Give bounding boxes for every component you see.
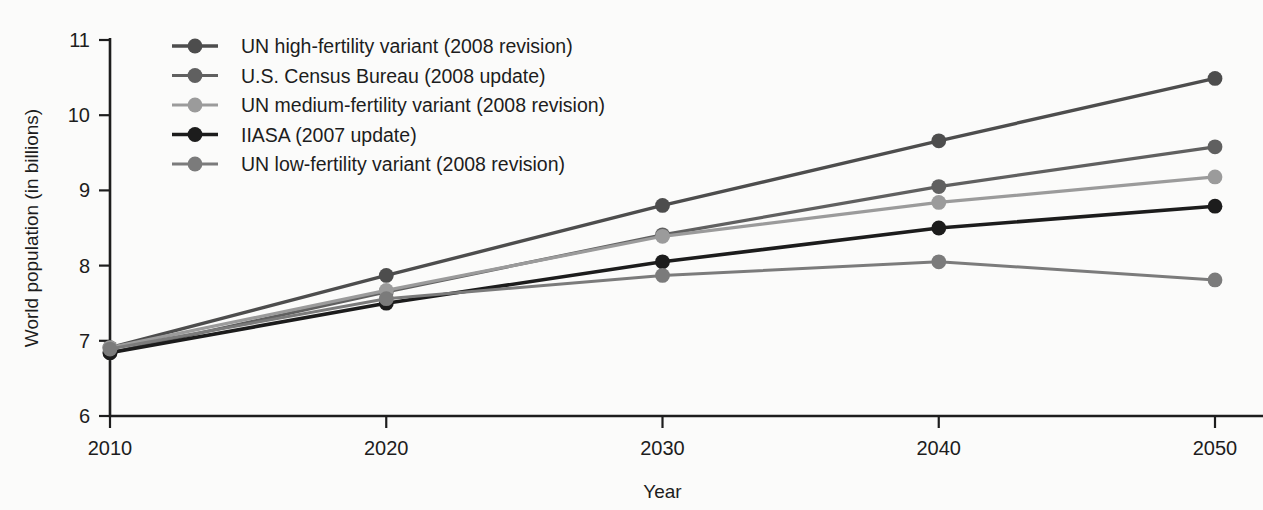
data-point-marker <box>1208 170 1223 185</box>
legend-label: UN high-fertility variant (2008 revision… <box>241 35 573 57</box>
x-axis-tick-label: 2030 <box>640 437 685 459</box>
population-projection-chart: 6789101120102020203020402050YearWorld po… <box>0 0 1263 510</box>
legend-label: IIASA (2007 update) <box>241 124 417 146</box>
legend-label: UN low-fertility variant (2008 revision) <box>241 153 565 175</box>
data-point-marker <box>655 198 670 213</box>
data-point-marker <box>1208 139 1223 154</box>
data-point-marker <box>931 221 946 236</box>
y-axis-tick-label: 7 <box>79 330 90 352</box>
x-axis-tick-label: 2010 <box>88 437 133 459</box>
y-axis-title: World population (in billions) <box>21 109 42 347</box>
data-point-marker <box>1208 71 1223 86</box>
data-point-marker <box>931 254 946 269</box>
chart-canvas: 6789101120102020203020402050YearWorld po… <box>0 0 1263 510</box>
x-axis-tick-label: 2040 <box>917 437 962 459</box>
y-axis-tick-label: 10 <box>68 104 90 126</box>
legend-swatch-marker <box>188 127 203 142</box>
y-axis-tick-label: 11 <box>69 29 90 51</box>
legend-item[interactable]: IIASA (2007 update) <box>172 124 417 146</box>
legend-item[interactable]: U.S. Census Bureau (2008 update) <box>172 65 546 87</box>
x-axis-title: Year <box>643 481 682 502</box>
legend-item[interactable]: UN high-fertility variant (2008 revision… <box>172 35 573 57</box>
data-point-marker <box>103 342 118 357</box>
legend-item[interactable]: UN medium-fertility variant (2008 revisi… <box>172 94 605 116</box>
data-point-marker <box>1208 273 1223 288</box>
data-point-marker <box>1208 199 1223 214</box>
data-point-marker <box>931 179 946 194</box>
x-axis-tick-label: 2020 <box>364 437 409 459</box>
legend-label: UN medium-fertility variant (2008 revisi… <box>241 94 605 116</box>
data-point-marker <box>655 268 670 283</box>
y-axis-tick-label: 9 <box>79 179 90 201</box>
y-axis-tick-label: 6 <box>79 405 90 427</box>
legend-swatch-marker <box>188 98 203 113</box>
legend-swatch-marker <box>188 39 203 54</box>
data-point-marker <box>931 133 946 148</box>
legend-swatch-marker <box>188 68 203 83</box>
series-line <box>110 78 1215 347</box>
data-point-marker <box>655 229 670 244</box>
data-point-marker <box>655 254 670 269</box>
y-axis-tick-label: 8 <box>79 255 90 277</box>
legend-swatch-marker <box>188 157 203 172</box>
data-point-marker <box>931 195 946 210</box>
legend-item[interactable]: UN low-fertility variant (2008 revision) <box>172 153 565 175</box>
data-point-marker <box>379 291 394 306</box>
x-axis-tick-label: 2050 <box>1193 437 1238 459</box>
data-point-marker <box>379 268 394 283</box>
legend-label: U.S. Census Bureau (2008 update) <box>241 65 546 87</box>
